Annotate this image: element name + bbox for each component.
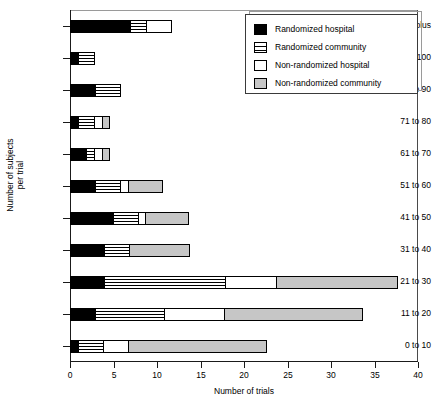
y-axis-tick-label: 11 to 20 [371,308,431,318]
x-axis-tick-label: 40 [403,370,433,380]
bar-segment-rand-comm [78,116,95,129]
x-axis-tick [331,362,332,368]
bar-segment-rand-hosp [70,20,131,33]
y-axis-title: Number of subjects per trial [5,115,25,235]
x-axis-tick [375,362,376,368]
x-axis-tick-label: 30 [316,370,346,380]
y-axis-tick-label: 0 to 10 [371,340,431,350]
y-axis-tick [63,218,70,219]
legend-label: Randomized hospital [275,24,354,34]
bar-segment-nonrand-hosp [146,20,172,33]
legend-swatch-rand-comm [254,42,267,53]
legend-swatch-nonrand-comm [254,78,267,89]
y-axis-tick-label: 31 to 40 [371,244,431,254]
bar-stack [70,180,162,193]
x-axis-tick [157,362,158,368]
bar-segment-rand-hosp [70,212,114,225]
y-axis-tick-label: 41 to 50 [371,212,431,222]
bar-segment-nonrand-hosp [103,340,129,353]
bar-stack [70,212,188,225]
bar-segment-nonrand-comm [128,340,267,353]
bar-segment-rand-comm [78,340,104,353]
bar-segment-nonrand-comm [128,180,163,193]
legend-label: Non-randomized community [275,78,381,88]
legend-label: Randomized community [275,42,366,52]
bar-stack [70,52,94,65]
bar-segment-rand-comm [95,308,165,321]
legend-item: Non-randomized hospital [254,56,411,74]
y-axis-tick [63,346,70,347]
bar-segment-nonrand-hosp [225,276,277,289]
y-axis-tick [63,90,70,91]
y-axis-tick [63,26,70,27]
y-axis-tick [63,154,70,155]
bar-segment-rand-hosp [70,84,96,97]
bar-stack [70,148,109,161]
x-axis-tick [288,362,289,368]
bar-segment-nonrand-comm [224,308,363,321]
x-axis-tick-label: 5 [99,370,129,380]
legend-item: Randomized hospital [254,20,411,38]
x-axis-tick [114,362,115,368]
bar-segment-rand-comm [130,20,147,33]
x-axis-tick-label: 35 [360,370,390,380]
bar-segment-rand-hosp [70,308,96,321]
bar-stack [70,20,171,33]
y-axis-tick [63,250,70,251]
bar-stack [70,308,362,321]
y-axis-tick-label: 51 to 60 [371,180,431,190]
legend-swatch-rand-hosp [254,24,267,35]
bar-stack [70,340,266,353]
bar-segment-nonrand-comm [145,212,189,225]
bar-segment-rand-hosp [70,244,105,257]
bar-segment-nonrand-comm [276,276,398,289]
bar-segment-rand-comm [95,84,121,97]
x-axis-title: Number of trials [70,386,418,396]
legend-swatch-nonrand-hosp [254,60,267,71]
bar-segment-nonrand-hosp [164,308,225,321]
x-axis-tick [70,362,71,368]
x-axis-tick [201,362,202,368]
bar-stack [70,84,120,97]
y-axis-tick-label: 71 to 80 [371,116,431,126]
bar-stack [70,116,109,129]
legend: Randomized hospitalRandomized communityN… [245,14,418,94]
y-axis-tick [63,186,70,187]
bar-segment-nonrand-comm [102,148,111,161]
x-axis-tick-label: 20 [229,370,259,380]
y-axis-tick-label: 61 to 70 [371,148,431,158]
y-axis-tick [63,282,70,283]
x-axis-tick-label: 10 [142,370,172,380]
bar-segment-nonrand-comm [129,244,190,257]
bar-segment-rand-hosp [70,180,96,193]
x-axis-tick-label: 25 [273,370,303,380]
bar-stack [70,276,397,289]
bar-segment-rand-hosp [70,148,87,161]
x-axis-tick [418,362,419,368]
bar-segment-rand-comm [78,52,95,65]
bar-segment-rand-comm [104,276,226,289]
x-axis-tick-label: 0 [55,370,85,380]
bar-stack [70,244,189,257]
legend-item: Non-randomized community [254,74,411,92]
x-axis-tick-label: 15 [186,370,216,380]
bar-segment-rand-comm [113,212,139,225]
x-axis-tick [244,362,245,368]
bar-segment-rand-comm [104,244,130,257]
bar-segment-nonrand-comm [102,116,111,129]
legend-item: Randomized community [254,38,411,56]
y-axis-tick [63,314,70,315]
y-axis-tick [63,58,70,59]
legend-label: Non-randomized hospital [275,60,370,70]
bar-segment-rand-comm [95,180,121,193]
y-axis-tick [63,122,70,123]
bar-segment-rand-hosp [70,276,105,289]
